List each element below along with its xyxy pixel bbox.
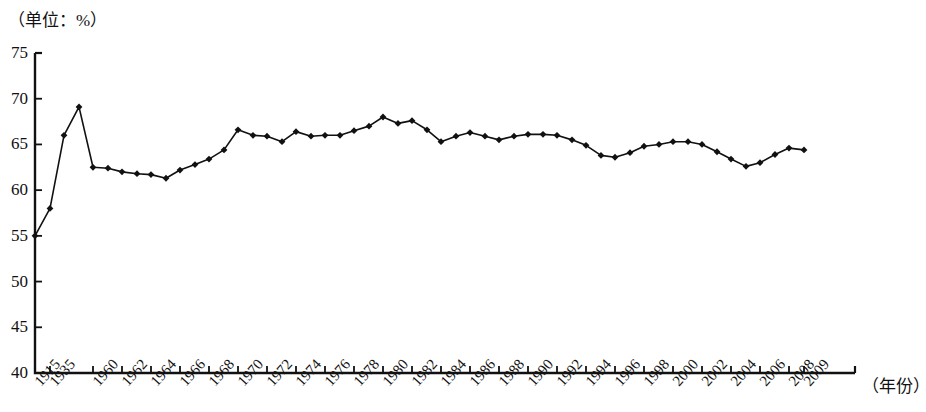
data-point-marker: [148, 171, 155, 178]
y-axis-tick-label: 55: [2, 227, 28, 244]
data-point-marker: [134, 170, 141, 177]
data-point-marker: [322, 132, 329, 139]
x-axis-title: （年份）: [862, 372, 926, 397]
y-axis-tick-label: 60: [2, 181, 28, 198]
data-point-marker: [467, 129, 474, 136]
data-point-marker: [76, 104, 83, 111]
data-point-marker: [351, 127, 358, 134]
data-point-marker: [641, 143, 648, 150]
data-point-marker: [395, 120, 402, 127]
data-point-marker: [264, 133, 271, 140]
y-axis-tick-label: 50: [2, 273, 28, 290]
data-point-marker: [569, 136, 576, 143]
data-point-marker: [192, 161, 199, 168]
data-point-marker: [772, 151, 779, 158]
data-point-marker: [482, 133, 489, 140]
data-point-marker: [786, 145, 793, 152]
chart-root: （单位：%） 4045505560657075 1915193519601962…: [0, 0, 926, 412]
data-point-marker: [540, 131, 547, 138]
data-point-marker: [685, 138, 692, 145]
line-chart-plot: [0, 0, 926, 412]
data-series-line: [35, 107, 804, 236]
chart-axes: [35, 53, 855, 373]
data-point-marker: [250, 132, 257, 139]
y-axis-tick-label: 75: [2, 44, 28, 61]
data-point-marker: [105, 165, 112, 172]
data-point-marker: [612, 154, 619, 161]
data-point-marker: [163, 175, 170, 182]
data-point-marker: [627, 149, 634, 156]
data-point-marker: [511, 133, 518, 140]
data-point-marker: [801, 147, 808, 154]
data-point-marker: [554, 132, 561, 139]
data-point-marker: [496, 136, 503, 143]
y-axis-tick-label: 45: [2, 318, 28, 335]
data-point-markers: [32, 104, 808, 240]
data-point-marker: [61, 132, 68, 139]
data-point-marker: [90, 164, 97, 171]
data-point-marker: [670, 138, 677, 145]
data-point-marker: [714, 148, 721, 155]
data-point-marker: [177, 167, 184, 174]
y-axis-tick-label: 65: [2, 135, 28, 152]
data-point-marker: [32, 232, 39, 239]
y-axis-tick-label: 40: [2, 364, 28, 381]
data-point-marker: [757, 159, 764, 166]
data-point-marker: [453, 133, 460, 140]
data-point-marker: [308, 133, 315, 140]
data-point-marker: [743, 163, 750, 170]
y-axis-tick-label: 70: [2, 90, 28, 107]
data-point-marker: [337, 132, 344, 139]
data-point-marker: [728, 156, 735, 163]
data-point-marker: [525, 131, 532, 138]
data-point-marker: [47, 205, 54, 212]
data-point-marker: [119, 168, 126, 175]
data-point-marker: [656, 141, 663, 148]
data-point-marker: [699, 141, 706, 148]
